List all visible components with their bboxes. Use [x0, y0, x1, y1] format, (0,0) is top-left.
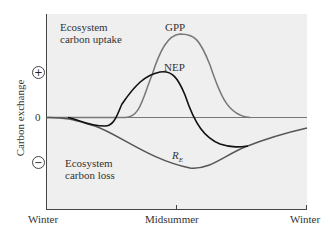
- minus-sign-icon: −: [32, 156, 45, 169]
- y-axis-label: Carbon exchange: [14, 68, 26, 168]
- x-label-winter-end: Winter: [290, 213, 320, 225]
- uptake-label-line2: carbon uptake: [60, 33, 122, 45]
- x-label-winter-start: Winter: [28, 213, 58, 225]
- loss-label: Ecosystem carbon loss: [65, 157, 115, 181]
- uptake-label-line1: Ecosystem: [60, 21, 122, 33]
- re-label: RE: [172, 149, 183, 166]
- gpp-label: GPP: [165, 21, 185, 33]
- nep-curve: [68, 72, 248, 147]
- re-label-sub: E: [179, 156, 183, 164]
- plus-sign-icon: +: [32, 66, 45, 79]
- loss-label-line2: carbon loss: [65, 169, 115, 181]
- x-label-midsummer: Midsummer: [145, 213, 199, 225]
- loss-label-line1: Ecosystem: [65, 157, 115, 169]
- nep-label: NEP: [164, 61, 185, 73]
- zero-tick-label: 0: [35, 111, 41, 123]
- re-label-main: R: [172, 149, 179, 161]
- chart-canvas: [0, 0, 333, 237]
- uptake-label: Ecosystem carbon uptake: [60, 21, 122, 45]
